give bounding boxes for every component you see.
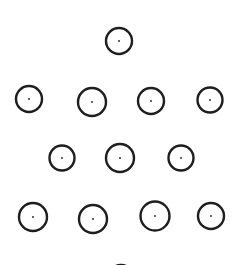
circle-row-4 — [19, 202, 224, 234]
circle-center-dot — [150, 100, 152, 102]
circle-item — [78, 88, 106, 116]
circle-center-dot — [92, 218, 94, 220]
circle-center-dot — [118, 40, 120, 42]
circle-item — [79, 205, 107, 233]
circle-row-1 — [106, 28, 132, 54]
circle-item — [198, 203, 224, 229]
circle-center-dot — [210, 215, 212, 217]
circle-item — [141, 202, 170, 231]
circle-center-dot — [119, 157, 121, 159]
circle-item — [19, 203, 47, 231]
circle-center-dot — [32, 216, 34, 218]
circle-item — [106, 28, 132, 54]
circle-item — [169, 146, 194, 171]
circle-center-dot — [154, 215, 156, 217]
circle-row-3 — [50, 144, 194, 172]
circle-center-dot — [180, 157, 182, 159]
circle-center-dot — [61, 157, 63, 159]
circle-item — [16, 86, 42, 112]
circle-center-dot — [209, 99, 211, 101]
circle-row-2 — [16, 86, 223, 116]
circle-item — [50, 146, 75, 171]
circle-item — [138, 88, 164, 114]
circle-item — [198, 88, 223, 113]
circle-center-dot — [91, 101, 93, 103]
circle-center-dot — [28, 98, 30, 100]
circle-pattern-diagram — [0, 0, 236, 265]
circle-item — [106, 144, 134, 172]
